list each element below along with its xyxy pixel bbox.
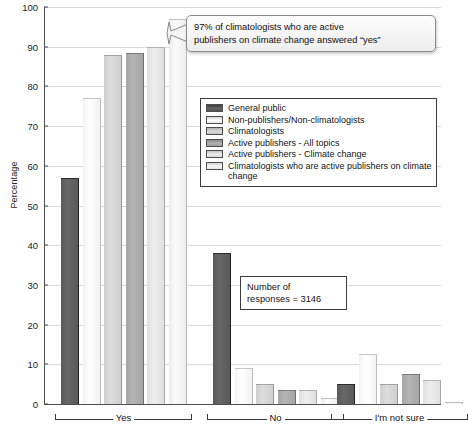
legend-item: Active publishers - All topics	[206, 138, 432, 149]
legend-item: Climatologists	[206, 126, 432, 137]
bar	[235, 368, 253, 404]
bar	[147, 47, 165, 404]
legend-item: Active publishers - Climate change	[206, 149, 432, 160]
bar	[299, 390, 317, 404]
bar	[126, 53, 144, 404]
y-tick-label-40: 40	[14, 240, 38, 251]
responses-note: Number of responses = 3146	[240, 276, 347, 310]
callout-line-1: 97% of climatologists who are active	[194, 21, 428, 34]
y-tick-label-10: 10	[14, 359, 38, 370]
group-bracket-i-m-not-sure: I'm not sure	[331, 409, 468, 431]
legend-item: General public	[206, 103, 432, 114]
bar	[402, 374, 420, 404]
legend-swatch	[206, 104, 223, 112]
group-label: I'm not sure	[372, 412, 427, 423]
legend: General publicNon-publishers/Non-climato…	[200, 98, 437, 187]
group-bracket-yes: Yes	[55, 409, 192, 431]
y-tick-label-100: 100	[14, 2, 38, 13]
legend-item: Non-publishers/Non-climatologists	[206, 115, 432, 126]
legend-swatch	[206, 127, 223, 135]
bar	[445, 402, 463, 404]
legend-item: Climatologists who are active publishers…	[206, 161, 432, 182]
bar	[213, 253, 231, 404]
legend-label: Climatologists who are active publishers…	[228, 161, 432, 182]
bar	[256, 384, 274, 404]
y-tick-label-30: 30	[14, 279, 38, 290]
legend-swatch	[206, 139, 223, 147]
bar	[423, 380, 441, 404]
legend-swatch	[206, 150, 223, 158]
bar	[337, 384, 355, 404]
legend-label: Climatologists	[228, 126, 284, 137]
group-label: Yes	[113, 412, 135, 423]
group-label: No	[266, 412, 284, 423]
bar	[321, 398, 339, 404]
bar	[278, 390, 296, 404]
legend-label: Active publishers - All topics	[228, 138, 340, 149]
bar	[61, 178, 79, 404]
responses-note-line-2: responses = 3146	[247, 293, 340, 305]
callout-line-2: publishers on climate change answered “y…	[194, 34, 428, 47]
group-bracket-no: No	[207, 409, 344, 431]
plot-area	[45, 7, 441, 404]
legend-swatch	[206, 116, 223, 124]
bar	[104, 55, 122, 404]
y-axis-title: Percentage	[9, 140, 19, 230]
y-tick-label-20: 20	[14, 319, 38, 330]
bar	[83, 98, 101, 404]
legend-label: Non-publishers/Non-climatologists	[228, 115, 365, 126]
y-tick-label-90: 90	[14, 41, 38, 52]
bar	[380, 384, 398, 404]
bar	[359, 354, 377, 404]
legend-label: General public	[228, 103, 286, 114]
legend-swatch	[206, 162, 223, 170]
responses-note-line-1: Number of	[247, 281, 340, 293]
callout-annotation: 97% of climatologists who are active pub…	[186, 15, 436, 52]
y-tick-label-80: 80	[14, 81, 38, 92]
y-tick-label-70: 70	[14, 121, 38, 132]
legend-label: Active publishers - Climate change	[228, 149, 367, 160]
y-tick-label-0: 0	[14, 399, 38, 410]
x-axis-line	[44, 404, 441, 405]
bar	[169, 19, 187, 404]
